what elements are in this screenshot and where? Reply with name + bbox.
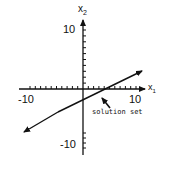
y-min-tick-label: -10 [60, 139, 76, 150]
solution-set-annotation: solution set [92, 109, 143, 116]
y-axis-label: x2 [78, 4, 87, 16]
x-max-tick-label: 10 [129, 94, 141, 105]
x-min-tick-label: -10 [18, 94, 34, 105]
annotation-arrow [102, 98, 110, 108]
solution-set-line [58, 71, 142, 112]
x-axis-label: x1 [148, 83, 156, 94]
y-max-tick-label: 10 [63, 24, 75, 35]
plot-canvas [0, 0, 169, 173]
